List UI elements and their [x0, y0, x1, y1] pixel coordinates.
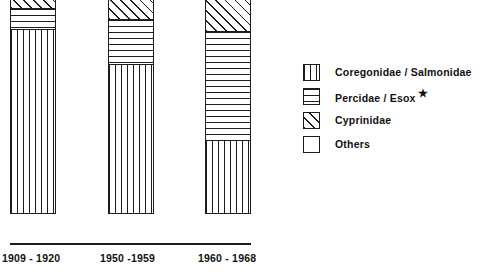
bar-segment-coregonidae: [11, 29, 55, 213]
bar-1950-1959: [108, 0, 154, 214]
legend-swatch-vertical-lines-icon: [303, 64, 320, 81]
bar-segment-percidae: [206, 31, 250, 140]
legend-swatch-blank-icon: [303, 136, 320, 153]
legend-swatch-horizontal-lines-icon: [303, 88, 320, 105]
bar-segment-coregonidae: [109, 64, 153, 213]
x-axis-tick-label-2: 1950 -1959: [100, 252, 155, 264]
legend-swatch-diagonal-hatch-icon: [303, 112, 320, 129]
bar-segment-cyprinidae: [206, 0, 250, 31]
legend-label-percidae-esox: Percidae / Esox★: [335, 88, 428, 104]
x-axis-baseline: [10, 243, 251, 245]
footnote-star-icon: ★: [418, 87, 428, 99]
bar-segment-cyprinidae: [109, 0, 153, 19]
bar-segment-percidae: [109, 19, 153, 64]
legend-item-coregonidae-salmonidae: Coregonidae / Salmonidae: [303, 60, 491, 84]
legend-item-cyprinidae: Cyprinidae: [303, 108, 491, 132]
bar-segment-coregonidae: [206, 140, 250, 213]
legend-item-percidae-esox: Percidae / Esox★: [303, 84, 491, 108]
bar-1909-1920: [10, 0, 56, 214]
bar-segment-percidae: [11, 8, 55, 29]
legend-label-percidae-esox-text: Percidae / Esox: [335, 92, 416, 104]
x-axis-tick-label-1: 1909 - 1920: [2, 252, 60, 264]
legend-item-others: Others: [303, 132, 491, 156]
chart-area: 1909 - 1920 1950 -1959 1960 - 1968: [0, 0, 285, 277]
legend-label-cyprinidae: Cyprinidae: [335, 114, 391, 126]
bar-segment-cyprinidae: [11, 0, 55, 8]
bar-1960-1968: [205, 0, 251, 214]
x-axis-tick-label-3: 1960 - 1968: [198, 252, 256, 264]
legend-label-coregonidae-salmonidae: Coregonidae / Salmonidae: [335, 66, 472, 78]
legend-label-others: Others: [335, 138, 370, 150]
x-axis-labels: 1909 - 1920 1950 -1959 1960 - 1968: [0, 252, 285, 272]
plot-region: [0, 0, 285, 248]
legend: Coregonidae / Salmonidae Percidae / Esox…: [303, 60, 491, 156]
